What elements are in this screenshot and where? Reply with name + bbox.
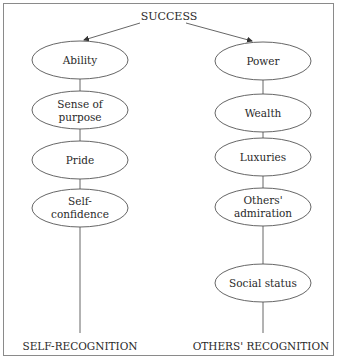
node-social-status: Social status: [215, 264, 311, 302]
node-wealth: Wealth: [215, 94, 311, 132]
node-label: Luxuries: [240, 151, 286, 163]
diagram-title: SUCCESS: [141, 10, 198, 23]
arrow-to-self-recognition: [84, 23, 140, 40]
node-label: Ability: [62, 54, 98, 66]
success-diagram: SUCCESS Ability Sense of purpose Pride S…: [0, 0, 337, 359]
node-label: Pride: [66, 154, 94, 166]
left-column: Ability Sense of purpose Pride Self- con…: [22, 41, 137, 352]
node-sense-of-purpose: Sense of purpose: [32, 91, 128, 129]
node-label: Wealth: [245, 107, 282, 119]
node-power: Power: [215, 42, 311, 80]
node-label: purpose: [58, 111, 101, 123]
node-label: admiration: [234, 207, 292, 219]
right-column: Power Wealth Luxuries Others' admiration…: [193, 42, 330, 352]
node-luxuries: Luxuries: [215, 138, 311, 176]
others-recognition-label: OTHERS' RECOGNITION: [193, 340, 330, 352]
node-label: Others': [243, 194, 282, 206]
node-label: Self-: [68, 195, 92, 207]
node-label: Sense of: [57, 98, 103, 110]
self-recognition-label: SELF-RECOGNITION: [22, 340, 137, 352]
node-label: Power: [246, 55, 280, 67]
node-ability: Ability: [32, 41, 128, 79]
node-pride: Pride: [32, 141, 128, 179]
node-others-admiration: Others' admiration: [215, 188, 311, 226]
arrow-to-others-recognition: [186, 23, 252, 41]
node-self-confidence: Self- confidence: [32, 189, 128, 227]
node-label: Social status: [229, 277, 297, 289]
node-label: confidence: [51, 208, 109, 220]
